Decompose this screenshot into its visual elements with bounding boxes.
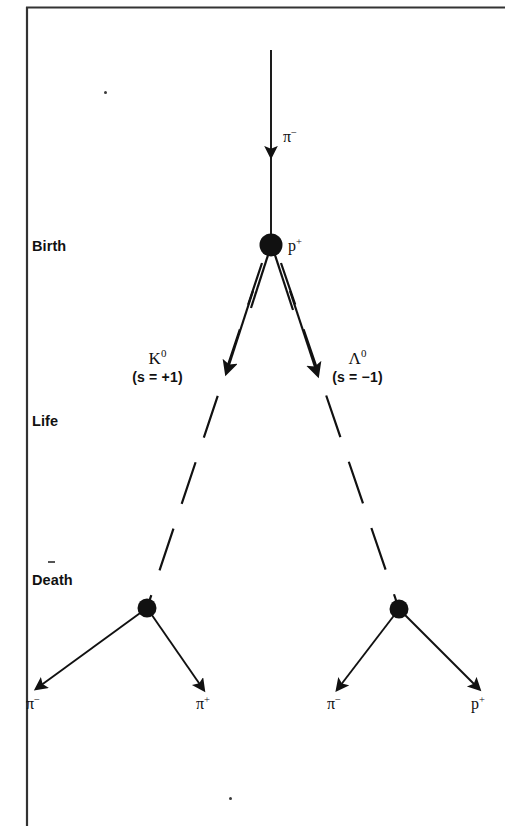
- lambda-zero-letter: Λ: [349, 349, 361, 368]
- lambda-zero-symbol: Λ0: [310, 348, 405, 369]
- birth-fork-left-stub: [251, 252, 269, 308]
- pi-minus-lambda-daughter-label: π−: [327, 695, 341, 713]
- particle-tracks-svg: [0, 0, 505, 826]
- p-plus-target-label: p+: [288, 237, 302, 255]
- pi-plus-charge: +: [204, 694, 210, 705]
- kaon-decay-vertex-dot: [138, 599, 157, 618]
- p-plus-charge: +: [479, 694, 485, 705]
- lambda-zero-strangeness: (s = −1): [310, 369, 405, 387]
- pi-minus-incoming-label: π−: [283, 128, 297, 146]
- lambda-zero-superscript: 0: [361, 347, 367, 359]
- lambda-zero-label-group: Λ0 (s = −1): [310, 348, 405, 387]
- p-plus-charge: +: [296, 236, 302, 247]
- stage-label-death: Death: [32, 572, 73, 588]
- pi-plus-kaon-daughter-label: π+: [196, 695, 210, 713]
- track-kaon-arrow-segment: [228, 291, 253, 368]
- pi-minus-charge: −: [34, 694, 40, 705]
- k-zero-label-group: K0 (s = +1): [110, 348, 205, 387]
- scan-dash-above-death: [48, 561, 55, 563]
- pi-minus-charge: −: [291, 127, 297, 138]
- p-plus-symbol: p: [471, 695, 479, 712]
- track-lambda-daughter-proton: [399, 609, 476, 686]
- track-kaon-daughter-pi-minus: [40, 608, 147, 686]
- lambda-decay-vertex-dot: [390, 600, 409, 619]
- production-vertex-dot: [260, 234, 283, 257]
- birth-fork-right-stub: [274, 252, 293, 310]
- p-plus-symbol: p: [288, 237, 296, 254]
- pi-minus-kaon-daughter-label: π−: [26, 695, 40, 713]
- stage-label-birth: Birth: [32, 238, 66, 254]
- p-plus-lambda-daughter-label: p+: [471, 695, 485, 713]
- stage-label-life: Life: [32, 413, 58, 429]
- scan-speck-lower-center: [229, 797, 232, 800]
- k-zero-symbol: K0: [110, 348, 205, 369]
- diagram-canvas: Birth Life Death π− p+ π− π+ π− p+ K0 (s…: [0, 0, 505, 826]
- pi-minus-symbol: π: [327, 695, 335, 712]
- pi-plus-symbol: π: [196, 695, 204, 712]
- track-lambda-daughter-pi-minus: [340, 609, 399, 686]
- k-zero-strangeness: (s = +1): [110, 369, 205, 387]
- pi-minus-symbol: π: [283, 128, 291, 145]
- track-kaon-daughter-pi-plus: [147, 608, 201, 686]
- pi-minus-symbol: π: [26, 695, 34, 712]
- k-zero-superscript: 0: [161, 347, 167, 359]
- scan-speck-upper-left: [104, 91, 107, 94]
- k-zero-letter: K: [149, 349, 161, 368]
- pi-minus-charge: −: [335, 694, 341, 705]
